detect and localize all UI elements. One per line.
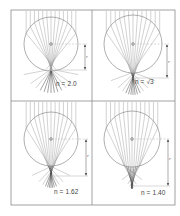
emergent-ray [48, 71, 51, 93]
internal-ray [128, 111, 130, 167]
internal-ray [39, 115, 49, 166]
sphere-refraction-diagram [0, 0, 180, 216]
emergent-ray [122, 166, 139, 180]
panel-label-bottom-right: n = 1.40 [141, 189, 165, 196]
internal-ray [39, 20, 52, 71]
panel-label-top-left: n = 2.0 [56, 80, 77, 87]
emergent-ray [51, 71, 54, 93]
internal-ray [45, 33, 76, 70]
arrowhead-up-icon [85, 139, 87, 142]
radius-label-bottom-left: r [87, 153, 89, 158]
internal-ray [123, 112, 128, 166]
arrowhead-down-icon [84, 67, 86, 70]
internal-ray [54, 118, 67, 166]
arrowhead-up-icon [167, 139, 169, 142]
internal-ray [136, 112, 141, 166]
arrowhead-up-icon [166, 44, 168, 47]
internal-ray [139, 117, 149, 166]
radius-label-top-right: r [168, 59, 170, 64]
panel-label-top-right: n = √3 [135, 78, 154, 85]
arrowhead-down-icon [167, 183, 169, 186]
internal-ray [52, 128, 76, 166]
figure-frame [11, 10, 175, 205]
emergent-ray [43, 166, 54, 185]
emergent-ray [24, 70, 46, 74]
internal-ray [119, 114, 127, 166]
radius-label-top-left: r [86, 54, 88, 59]
arrowhead-down-icon [166, 75, 168, 78]
internal-ray [137, 114, 145, 166]
arrowhead-up-icon [84, 44, 86, 47]
internal-ray [54, 115, 64, 166]
panel-label-bottom-left: n = 1.62 [54, 188, 78, 195]
radius-label-bottom-right: r [169, 156, 171, 161]
internal-ray [34, 118, 47, 166]
arrowhead-down-icon [85, 173, 87, 176]
emergent-ray [111, 73, 132, 81]
emergent-ray [57, 70, 79, 74]
emergent-ray [126, 73, 135, 93]
internal-ray [115, 117, 125, 166]
internal-ray [115, 21, 131, 73]
